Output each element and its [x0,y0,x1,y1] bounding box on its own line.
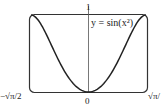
y-tick-1: 1 [86,3,91,12]
x-tick-max: √π/ [148,92,160,101]
x-tick-zero: 0 [85,97,90,106]
x-tick-min: −√π/2 [0,92,22,101]
plot-area [0,0,164,107]
curve-label: y = sin(x²) [91,18,133,28]
